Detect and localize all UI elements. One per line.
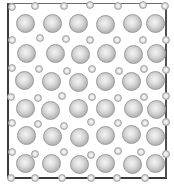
small-atom-sphere (87, 118, 95, 126)
small-atom-sphere (140, 93, 148, 101)
large-atom-sphere (70, 155, 89, 174)
small-atom-sphere (161, 2, 169, 10)
small-atom-sphere (88, 65, 96, 73)
small-atom-sphere (60, 148, 68, 156)
small-atom-sphere (86, 36, 94, 44)
large-atom-sphere (124, 45, 143, 64)
large-atom-sphere (70, 128, 89, 147)
small-atom-sphere (58, 174, 66, 182)
large-atom-sphere (146, 154, 165, 173)
small-atom-sphere (141, 174, 149, 182)
large-atom-sphere (146, 127, 165, 146)
large-atom-sphere (17, 44, 36, 63)
small-atom-sphere (34, 120, 42, 128)
small-atom-sphere (141, 119, 149, 127)
small-atom-sphere (36, 34, 44, 42)
small-atom-sphere (35, 65, 43, 73)
large-atom-sphere (41, 101, 60, 120)
large-atom-sphere (146, 14, 165, 33)
small-atom-sphere (63, 67, 71, 75)
large-atom-sphere (96, 154, 115, 173)
large-atom-sphere (96, 15, 115, 34)
large-atom-sphere (96, 99, 115, 118)
large-atom-sphere (69, 14, 88, 33)
small-atom-sphere (137, 148, 145, 156)
small-atom-sphere (140, 65, 148, 73)
small-atom-sphere (8, 3, 16, 11)
large-atom-sphere (16, 154, 35, 173)
large-atom-sphere (122, 125, 141, 144)
small-atom-sphere (60, 122, 68, 130)
small-atom-sphere (58, 92, 66, 100)
large-atom-sphere (17, 126, 36, 145)
large-atom-sphere (16, 99, 35, 118)
large-atom-sphere (71, 45, 90, 64)
small-atom-sphere (8, 64, 16, 72)
small-atom-sphere (60, 2, 68, 10)
large-atom-sphere (122, 72, 141, 91)
small-atom-sphere (31, 174, 39, 182)
small-atom-sphere (113, 174, 121, 182)
small-atom-sphere (62, 35, 70, 43)
small-atom-sphere (114, 147, 122, 155)
small-atom-sphere (88, 93, 96, 101)
small-atom-sphere (31, 2, 39, 10)
small-atom-sphere (34, 94, 42, 102)
large-atom-sphere (123, 14, 142, 33)
small-atom-sphere (162, 36, 170, 44)
large-atom-sphere (69, 73, 88, 92)
large-atom-sphere (147, 100, 166, 119)
small-atom-sphere (7, 93, 15, 101)
small-atom-sphere (8, 36, 16, 44)
large-atom-sphere (124, 99, 143, 118)
small-atom-sphere (115, 67, 123, 75)
large-atom-sphere (123, 155, 142, 174)
small-atom-sphere (8, 148, 16, 156)
large-atom-sphere (42, 72, 61, 91)
small-atom-sphere (114, 2, 122, 10)
small-atom-sphere (139, 36, 147, 44)
large-atom-sphere (46, 44, 65, 63)
small-atom-sphere (162, 66, 170, 74)
small-atom-sphere (162, 118, 170, 126)
small-atom-sphere (114, 94, 122, 102)
large-atom-sphere (43, 14, 62, 33)
small-atom-sphere (87, 174, 95, 182)
small-atom-sphere (162, 92, 170, 100)
large-atom-sphere (147, 44, 166, 63)
large-atom-sphere (69, 99, 88, 118)
small-atom-sphere (162, 150, 170, 158)
large-atom-sphere (97, 44, 116, 63)
large-atom-sphere (146, 71, 165, 90)
large-atom-sphere (15, 71, 34, 90)
large-atom-sphere (96, 72, 115, 91)
small-atom-sphere (139, 1, 147, 9)
large-atom-sphere (43, 127, 62, 146)
small-atom-sphere (113, 36, 121, 44)
small-atom-sphere (87, 151, 95, 159)
large-atom-sphere (96, 126, 115, 145)
large-atom-sphere (16, 14, 35, 33)
lattice-figure (0, 0, 174, 184)
small-atom-sphere (114, 119, 122, 127)
small-atom-sphere (86, 1, 94, 9)
large-atom-sphere (42, 154, 61, 173)
small-atom-sphere (8, 119, 16, 127)
small-atom-sphere (7, 174, 15, 182)
